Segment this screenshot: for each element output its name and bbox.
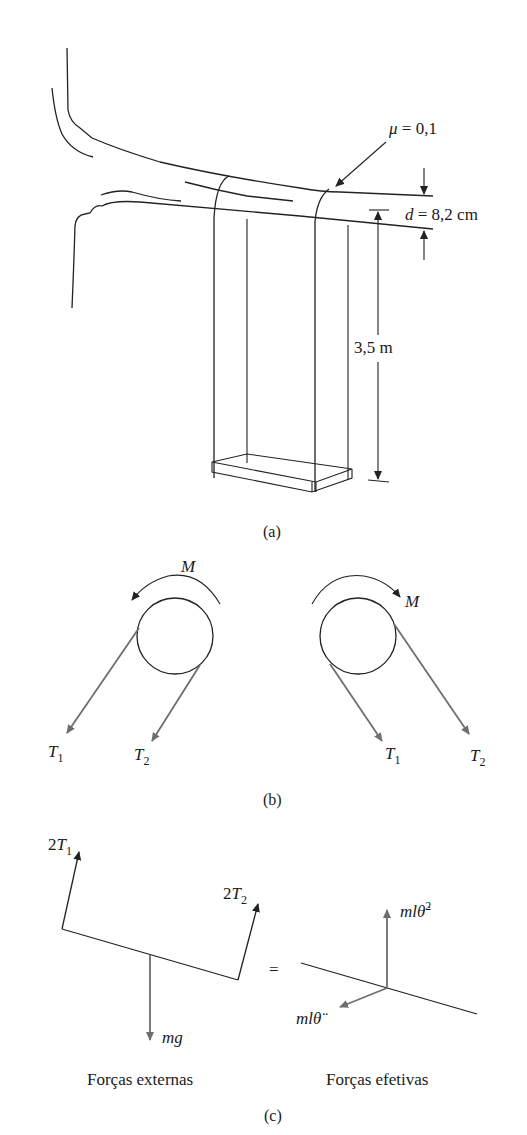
panel-a-swing: μ = 0,1 d = 8,2 cm 3,5 m (a) (52, 48, 478, 541)
right-moment-label: M (404, 592, 420, 611)
panel-b-pulley-diagrams: M T1 T2 M T1 T2 (b) (48, 557, 485, 809)
panel-c-force-diagrams: 2T1 2T2 mg = mlθ̇2 mlθ̈ Forças externas … (48, 835, 477, 1125)
left-moment-label: M (180, 557, 196, 576)
external-forces-diagram (62, 852, 258, 1040)
force-2t2-label: 2T2 (223, 884, 247, 907)
tangential-acceleration-label: mlθ̈ (296, 1009, 328, 1028)
force-2t1-label: 2T1 (48, 835, 72, 858)
right-pulley (312, 576, 469, 741)
effective-forces-diagram (301, 910, 477, 1014)
friction-coefficient-label: μ = 0,1 (388, 119, 437, 138)
rope-length-label: 3,5 m (354, 338, 393, 357)
swing-friction-figure: μ = 0,1 d = 8,2 cm 3,5 m (a) M (0, 0, 527, 1135)
friction-pointer-arrow (336, 142, 386, 186)
caption-a: (a) (263, 523, 281, 541)
right-t2-label: T2 (470, 746, 485, 769)
caption-c: (c) (264, 1107, 282, 1125)
left-pulley (67, 575, 220, 741)
left-t2-label: T2 (134, 745, 149, 768)
weight-label: mg (162, 1028, 183, 1047)
normal-acceleration-label: mlθ̇2 (400, 899, 431, 921)
swing-ropes (214, 176, 348, 492)
swing-seat (212, 454, 352, 492)
external-forces-title: Forças externas (87, 1070, 193, 1089)
diameter-label: d = 8,2 cm (405, 205, 478, 224)
equals-sign: = (269, 960, 279, 979)
effective-forces-title: Forças efetivas (326, 1070, 428, 1089)
tree-branch (52, 48, 433, 308)
right-t1-label: T1 (385, 744, 400, 767)
caption-b: (b) (263, 791, 282, 809)
left-t1-label: T1 (48, 742, 63, 765)
